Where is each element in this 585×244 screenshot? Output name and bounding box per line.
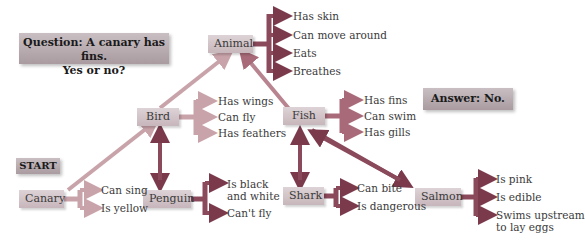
fish-prop-3: Has gills <box>364 126 410 138</box>
penguin-prop-2: Can't fly <box>227 207 271 219</box>
canary-prop-1: Can sing <box>101 184 148 196</box>
bird-prop-3: Has feathers <box>218 127 286 139</box>
shark-prop-1: Can bite <box>357 182 402 194</box>
node-fish: Fish <box>283 107 325 125</box>
animal-prop-3: Eats <box>293 47 317 59</box>
penguin-prop-1-line-1: Is black <box>227 178 280 190</box>
node-shark: Shark <box>283 187 324 205</box>
node-animal: Animal <box>208 35 253 53</box>
salmon-prop-1: Is pink <box>496 173 532 185</box>
animal-prop-4: Breathes <box>293 65 341 77</box>
question-callout: Question: A canary has fins. Yes or no? <box>19 33 169 64</box>
bird-prop-1: Has wings <box>218 95 273 107</box>
salmon-prop-3-line-1: Swims upstream <box>496 209 585 221</box>
penguin-prop-1-line-2: and white <box>227 190 280 202</box>
animal-prop-1: Has skin <box>293 10 339 22</box>
bird-prop-2: Can fly <box>218 111 255 123</box>
node-penguin: Penguin <box>143 190 191 208</box>
canary-prop-2: Is yellow <box>101 202 148 214</box>
question-line-2: Yes or no? <box>19 64 169 78</box>
fish-prop-1: Has fins <box>364 94 407 106</box>
fish-prop-2: Can swim <box>364 110 416 122</box>
salmon-prop-3-line-2: to lay eggs <box>496 221 585 233</box>
shark-prop-2: Is dangerous <box>357 200 426 212</box>
salmon-prop-3: Swims upstream to lay eggs <box>496 209 585 233</box>
penguin-prop-1: Is black and white <box>227 178 280 202</box>
animal-prop-2: Can move around <box>293 29 387 41</box>
question-line-1: Question: A canary has fins. <box>19 36 169 64</box>
node-canary: Canary <box>19 190 64 208</box>
answer-callout: Answer: No. <box>423 88 513 110</box>
start-label: START <box>16 158 60 174</box>
node-bird: Bird <box>137 108 179 126</box>
salmon-prop-2: Is edible <box>496 191 541 203</box>
